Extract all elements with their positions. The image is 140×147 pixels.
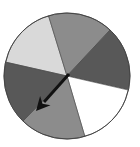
spinner-diagram (0, 0, 140, 147)
